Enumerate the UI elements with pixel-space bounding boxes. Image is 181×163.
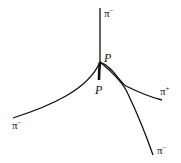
- label-proton: P: [95, 84, 102, 96]
- track-pi-minus-lower-right: [100, 62, 153, 155]
- track-pi-minus-left: [13, 62, 100, 118]
- track-pi-plus: [100, 62, 162, 100]
- label-vertex-p: P: [104, 52, 111, 64]
- label-pi-minus-lower-right: π−: [157, 145, 167, 156]
- label-pi-plus: π+: [160, 86, 170, 97]
- track-diagram: [0, 0, 181, 163]
- label-pi-minus-up: π−: [104, 8, 114, 19]
- label-pi-minus-left: π−: [12, 120, 22, 131]
